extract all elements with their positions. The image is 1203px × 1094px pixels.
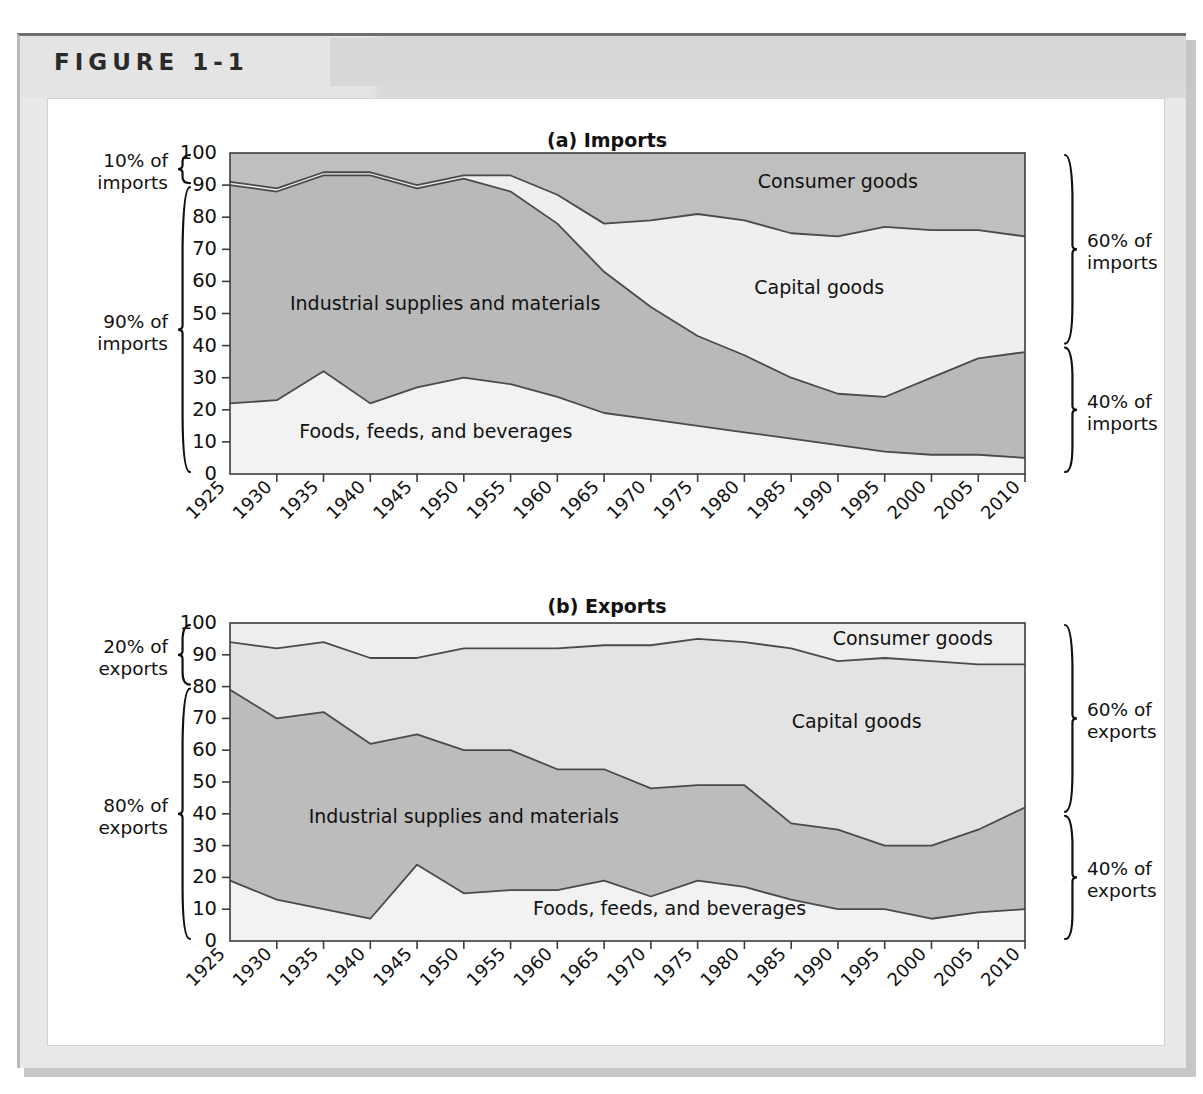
x-axis-label: 1970 <box>602 943 649 990</box>
svg-text:2010: 2010 <box>977 476 1024 523</box>
right-bracket-0 <box>1065 155 1077 344</box>
chart-exports-svg: 0102030405060708090100192519301935194019… <box>48 587 1166 1043</box>
svg-text:1935: 1935 <box>275 943 322 990</box>
x-axis-label: 1970 <box>602 476 649 523</box>
svg-text:1930: 1930 <box>228 943 275 990</box>
y-axis-label: 40 <box>192 802 217 825</box>
y-axis-label: 40 <box>192 334 217 357</box>
y-axis-label: 60 <box>192 269 217 292</box>
series-label: Consumer goods <box>758 170 918 192</box>
figure-page: FIGURE 1-1 (a) Imports 01020304050607080… <box>0 0 1203 1094</box>
y-axis-label: 90 <box>192 173 217 196</box>
series-label: Consumer goods <box>833 627 993 649</box>
x-axis-label: 1975 <box>649 476 696 523</box>
svg-text:1960: 1960 <box>509 476 556 523</box>
x-axis-label: 1960 <box>509 476 556 523</box>
left-bracket-label-line1: 10% of <box>103 150 168 171</box>
y-axis-label: 80 <box>192 675 217 698</box>
left-bracket-label-line2: imports <box>97 333 168 354</box>
x-axis-label: 1945 <box>369 476 416 523</box>
right-bracket-label-line2: imports <box>1087 252 1158 273</box>
y-axis-label: 90 <box>192 643 217 666</box>
x-axis-label: 1935 <box>275 476 322 523</box>
right-bracket-1 <box>1065 816 1077 939</box>
svg-text:1975: 1975 <box>649 476 696 523</box>
y-axis-label: 60 <box>192 738 217 761</box>
right-bracket-label-line1: 60% of <box>1087 699 1152 720</box>
x-axis-label: 2005 <box>930 476 977 523</box>
svg-text:1950: 1950 <box>415 943 462 990</box>
svg-text:1950: 1950 <box>415 476 462 523</box>
figure-container: FIGURE 1-1 (a) Imports 01020304050607080… <box>17 33 1186 1068</box>
y-axis-label: 20 <box>192 865 217 888</box>
series-label: Foods, feeds, and beverages <box>299 420 572 442</box>
y-axis-label: 30 <box>192 834 217 857</box>
svg-text:1980: 1980 <box>696 943 743 990</box>
svg-text:1965: 1965 <box>556 943 603 990</box>
svg-text:2005: 2005 <box>930 476 977 523</box>
x-axis-label: 1950 <box>415 943 462 990</box>
y-axis-label: 100 <box>180 141 217 164</box>
svg-text:1975: 1975 <box>649 943 696 990</box>
svg-text:1990: 1990 <box>790 943 837 990</box>
x-axis-label: 2000 <box>883 943 930 990</box>
svg-text:1945: 1945 <box>369 943 416 990</box>
svg-text:1985: 1985 <box>743 476 790 523</box>
series-label: Foods, feeds, and beverages <box>533 897 806 919</box>
y-axis-label: 10 <box>192 430 217 453</box>
x-axis-label: 1945 <box>369 943 416 990</box>
figure-shadow-bottom <box>24 1068 1196 1077</box>
svg-text:1930: 1930 <box>228 476 275 523</box>
series-label: Capital goods <box>792 710 922 732</box>
left-bracket-1 <box>178 187 190 472</box>
svg-text:2000: 2000 <box>883 476 930 523</box>
y-axis-label: 70 <box>192 706 217 729</box>
svg-text:1970: 1970 <box>602 943 649 990</box>
x-axis-label: 2010 <box>977 476 1024 523</box>
right-bracket-label-line2: exports <box>1087 880 1157 901</box>
x-axis-label: 1975 <box>649 943 696 990</box>
left-bracket-label-line1: 80% of <box>103 795 168 816</box>
chart-exports: 0102030405060708090100192519301935194019… <box>48 587 1166 1043</box>
right-bracket-label-line1: 40% of <box>1087 858 1152 879</box>
figure-header-band: FIGURE 1-1 <box>20 36 1186 98</box>
series-label: Industrial supplies and materials <box>309 805 619 827</box>
svg-text:1965: 1965 <box>556 476 603 523</box>
svg-text:1960: 1960 <box>509 943 556 990</box>
figure-plate: (a) Imports 0102030405060708090100192519… <box>47 98 1165 1046</box>
panel-exports: (b) Exports 0102030405060708090100192519… <box>48 587 1166 1043</box>
svg-text:2010: 2010 <box>977 943 1024 990</box>
y-axis-label: 50 <box>192 770 217 793</box>
svg-text:1990: 1990 <box>790 476 837 523</box>
chart-imports: 0102030405060708090100192519301935194019… <box>48 103 1166 583</box>
panel-imports: (a) Imports 0102030405060708090100192519… <box>48 103 1166 583</box>
x-axis-label: 1950 <box>415 476 462 523</box>
x-axis-label: 1985 <box>743 476 790 523</box>
y-axis-label: 30 <box>192 366 217 389</box>
left-bracket-label-line1: 90% of <box>103 311 168 332</box>
x-axis-label: 1980 <box>696 476 743 523</box>
right-bracket-label-line1: 40% of <box>1087 391 1152 412</box>
svg-text:2005: 2005 <box>930 943 977 990</box>
svg-text:1955: 1955 <box>462 943 509 990</box>
x-axis-label: 2010 <box>977 943 1024 990</box>
x-axis-label: 1940 <box>322 476 369 523</box>
y-axis-label: 80 <box>192 205 217 228</box>
figure-label: FIGURE 1-1 <box>54 49 249 75</box>
x-axis-label: 1955 <box>462 943 509 990</box>
right-bracket-label-line2: exports <box>1087 721 1157 742</box>
x-axis-label: 1980 <box>696 943 743 990</box>
y-axis-label: 10 <box>192 897 217 920</box>
left-bracket-1 <box>178 689 190 939</box>
left-bracket-label-line2: imports <box>97 172 168 193</box>
right-bracket-label-line2: imports <box>1087 413 1158 434</box>
svg-text:1940: 1940 <box>322 943 369 990</box>
figure-header-tint <box>330 38 1186 86</box>
y-axis-label: 50 <box>192 302 217 325</box>
chart-imports-svg: 0102030405060708090100192519301935194019… <box>48 103 1166 583</box>
x-axis-label: 2005 <box>930 943 977 990</box>
x-axis-label: 1985 <box>743 943 790 990</box>
x-axis-label: 1990 <box>790 943 837 990</box>
y-axis-label: 20 <box>192 398 217 421</box>
svg-text:2000: 2000 <box>883 943 930 990</box>
